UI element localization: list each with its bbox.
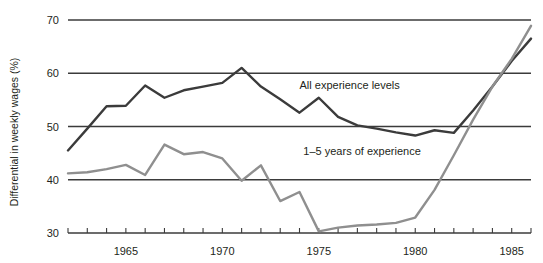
y-tick-label: 40 [47,174,59,186]
y-tick-label: 50 [47,121,59,133]
x-tick-label: 1970 [210,245,234,257]
series-lines [68,26,531,232]
series-line [68,39,531,151]
x-tick-label: 1985 [499,245,523,257]
x-axis [68,228,531,233]
series-label: 1–5 years of experience [303,145,420,157]
y-axis-title-text: Differential in weekly wages (%) [8,58,20,207]
y-tick-labels: 3040506070 [47,14,59,239]
series-annotations: All experience levels1–5 years of experi… [300,79,421,157]
y-tick-label: 60 [47,67,59,79]
series-label: All experience levels [300,79,401,91]
line-chart: 3040506070 19651970197519801985 All expe… [0,0,543,263]
gridlines [68,20,531,180]
y-axis-title: Differential in weekly wages (%) [8,58,20,207]
x-tick-label: 1975 [307,245,331,257]
y-tick-label: 30 [47,227,59,239]
x-tick-label: 1965 [114,245,138,257]
x-tick-labels: 19651970197519801985 [114,245,524,257]
chart-container: 3040506070 19651970197519801985 All expe… [0,0,543,263]
series-line [68,26,531,232]
y-tick-label: 70 [47,14,59,26]
x-tick-label: 1980 [403,245,427,257]
